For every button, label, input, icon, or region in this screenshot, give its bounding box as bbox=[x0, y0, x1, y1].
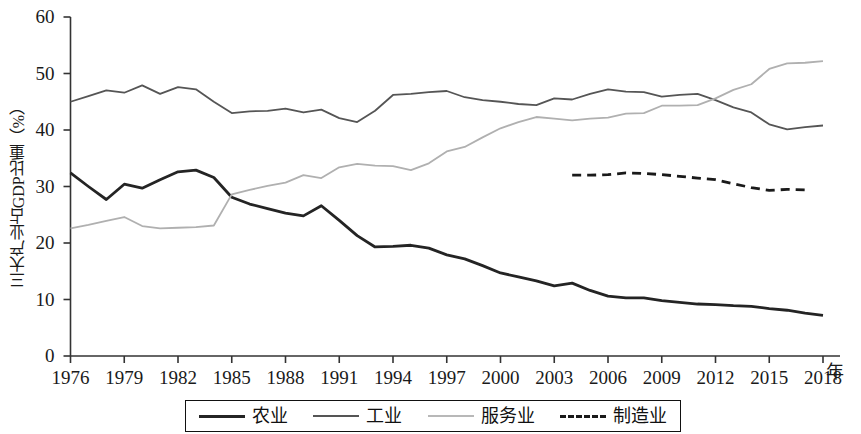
y-tick-label: 40 bbox=[19, 120, 55, 139]
x-tick-label: 1988 bbox=[256, 368, 316, 387]
series-line-制造业 bbox=[572, 173, 805, 191]
legend-item-manufacturing[interactable]: 制造业 bbox=[558, 407, 669, 425]
chart-figure: 三大产业占GDP比重（%） 0102030405060 197619791982… bbox=[0, 0, 861, 434]
x-tick-label: 2015 bbox=[739, 368, 799, 387]
x-tick-label: 2009 bbox=[632, 368, 692, 387]
x-tick-label: 1985 bbox=[202, 368, 262, 387]
x-tick-label: 1982 bbox=[148, 368, 208, 387]
x-axis-title: 年 bbox=[826, 363, 844, 381]
x-axis-ticks bbox=[71, 356, 824, 363]
x-tick-label: 1979 bbox=[94, 368, 154, 387]
y-tick-label: 20 bbox=[19, 233, 55, 252]
legend-label-agriculture: 农业 bbox=[252, 407, 288, 425]
x-tick-label: 1994 bbox=[363, 368, 423, 387]
legend-swatch-agriculture bbox=[199, 415, 245, 418]
legend-label-manufacturing: 制造业 bbox=[613, 407, 667, 425]
y-tick-label: 50 bbox=[19, 64, 55, 83]
y-tick-label: 10 bbox=[19, 290, 55, 309]
series-line-农业 bbox=[71, 170, 824, 315]
y-axis-ticks bbox=[64, 17, 71, 356]
x-tick-label: 2006 bbox=[578, 368, 638, 387]
y-tick-label: 30 bbox=[19, 177, 55, 196]
x-tick-label: 2012 bbox=[686, 368, 746, 387]
chart-legend: 农业 工业 服务业 制造业 bbox=[185, 400, 681, 432]
legend-item-services[interactable]: 服务业 bbox=[426, 407, 537, 425]
series-line-服务业 bbox=[71, 61, 824, 228]
legend-swatch-manufacturing bbox=[560, 415, 606, 418]
x-tick-label: 2003 bbox=[524, 368, 584, 387]
x-tick-label: 2018 bbox=[793, 368, 853, 387]
legend-label-services: 服务业 bbox=[481, 407, 535, 425]
chart-series-group bbox=[71, 61, 824, 315]
x-tick-label: 1997 bbox=[417, 368, 477, 387]
legend-swatch-services bbox=[428, 415, 474, 417]
legend-label-industry: 工业 bbox=[366, 407, 402, 425]
legend-swatch-industry bbox=[313, 415, 359, 417]
x-tick-label: 2000 bbox=[471, 368, 531, 387]
y-tick-label: 60 bbox=[19, 7, 55, 26]
x-tick-label: 1976 bbox=[41, 368, 101, 387]
legend-item-agriculture[interactable]: 农业 bbox=[197, 407, 290, 425]
y-tick-label: 0 bbox=[19, 346, 55, 365]
x-tick-label: 1991 bbox=[309, 368, 369, 387]
series-line-工业 bbox=[71, 85, 824, 129]
legend-item-industry[interactable]: 工业 bbox=[311, 407, 404, 425]
